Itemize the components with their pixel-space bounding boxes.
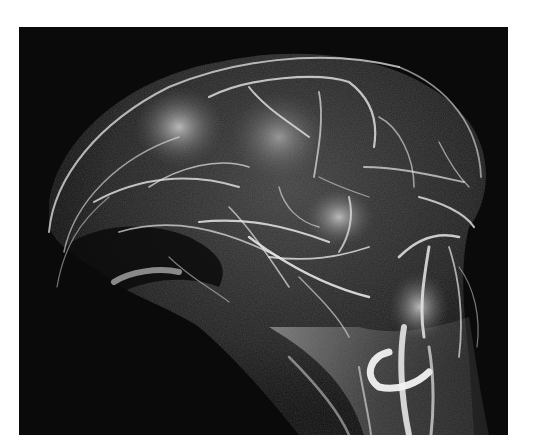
vascular-render: [19, 27, 508, 435]
brain-region-mid: [229, 92, 329, 182]
angiography-image-frame: [19, 27, 508, 435]
vessel-cluster: [304, 187, 374, 247]
vessel-cluster-right: [389, 272, 449, 342]
